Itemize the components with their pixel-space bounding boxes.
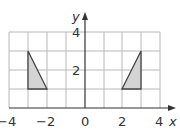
y-axis-label: y: [71, 9, 80, 24]
x-tick-neg2: −2: [36, 114, 55, 129]
x-tick-2: 2: [118, 114, 126, 129]
y-tick-4: 4: [72, 25, 80, 40]
coordinate-grid-diagram: y 4 2 −4 −2 0 2 4 x: [0, 0, 180, 133]
y-axis-arrow-icon: [82, 12, 88, 20]
x-tick-neg4: −4: [0, 114, 16, 129]
x-axis: [9, 105, 176, 111]
x-tick-4: 4: [155, 114, 163, 129]
x-tick-0: 0: [81, 114, 89, 129]
y-axis: [82, 12, 88, 108]
x-axis-arrow-icon: [168, 105, 176, 111]
x-axis-label: x: [168, 114, 177, 129]
y-tick-2: 2: [72, 63, 80, 78]
